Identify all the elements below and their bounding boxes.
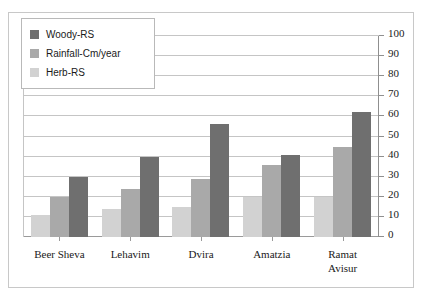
bar: [191, 179, 210, 237]
tick-mark: [201, 237, 202, 241]
chart-figure: 0102030405060708090100 Beer ShevaLehavim…: [8, 12, 414, 288]
legend-item-label: Woody-RS: [46, 29, 94, 40]
x-axis-category-line: Ramat: [307, 247, 378, 261]
tick-mark: [379, 55, 384, 56]
legend-swatch-icon: [30, 49, 39, 58]
bar: [314, 197, 333, 237]
bar: [102, 209, 121, 237]
bar-group: [166, 36, 237, 237]
x-axis-category-label: Dvira: [166, 237, 237, 285]
x-axis-category-line: Dvira: [166, 247, 237, 261]
tick-mark: [379, 236, 384, 237]
tick-mark: [343, 237, 344, 241]
tick-mark: [379, 176, 384, 177]
x-axis-category-line: Lehavim: [95, 247, 166, 261]
bar: [140, 157, 159, 237]
bar: [333, 147, 352, 237]
legend-swatch-icon: [30, 68, 39, 77]
legend-item: Rainfall-Cm/year: [30, 44, 144, 63]
tick-mark: [379, 216, 384, 217]
tick-mark: [130, 237, 131, 241]
bar: [262, 165, 281, 237]
chart-legend: Woody-RSRainfall-Cm/yearHerb-RS: [21, 18, 155, 89]
y-axis-tick-label: 90: [388, 48, 399, 59]
bar: [31, 215, 50, 237]
y-axis-tick-label: 30: [388, 169, 399, 180]
tick-mark: [379, 75, 384, 76]
y-axis-tick-label: 80: [388, 68, 399, 79]
x-axis-category-line: Amatzia: [236, 247, 307, 261]
legend-item: Herb-RS: [30, 63, 144, 82]
legend-item-label: Rainfall-Cm/year: [46, 48, 120, 59]
tick-mark: [379, 136, 384, 137]
y-axis-tick-label: 20: [388, 189, 399, 200]
bar: [50, 197, 69, 237]
bar: [352, 112, 371, 237]
tick-mark: [379, 115, 384, 116]
tick-mark: [379, 196, 384, 197]
y-axis-tick-label: 100: [388, 28, 405, 39]
x-axis-category-line: Beer Sheva: [24, 247, 95, 261]
tick-mark: [379, 156, 384, 157]
legend-item: Woody-RS: [30, 25, 144, 44]
bar: [69, 177, 88, 237]
y-axis: 0102030405060708090100: [379, 36, 415, 237]
x-axis: Beer ShevaLehavimDviraAmatziaRamatAvisur: [24, 237, 378, 285]
legend-swatch-icon: [30, 30, 39, 39]
x-axis-category-label: RamatAvisur: [307, 237, 378, 285]
y-axis-tick-label: 10: [388, 209, 399, 220]
x-axis-category-label: Amatzia: [236, 237, 307, 285]
y-axis-tick-label: 70: [388, 88, 399, 99]
y-axis-tick-label: 0: [388, 229, 394, 240]
bar-group: [307, 36, 378, 237]
tick-mark: [379, 35, 384, 36]
y-axis-tick-label: 40: [388, 149, 399, 160]
tick-mark: [59, 237, 60, 241]
bar: [172, 207, 191, 237]
bar: [281, 155, 300, 237]
y-axis-tick-label: 60: [388, 108, 399, 119]
bar-group: [236, 36, 307, 237]
legend-item-label: Herb-RS: [46, 67, 85, 78]
x-axis-category-label: Beer Sheva: [24, 237, 95, 285]
x-axis-category-line: Avisur: [307, 261, 378, 275]
tick-mark: [272, 237, 273, 241]
bar: [210, 124, 229, 237]
bar: [243, 197, 262, 237]
y-axis-tick-label: 50: [388, 129, 399, 140]
x-axis-category-label: Lehavim: [95, 237, 166, 285]
tick-mark: [379, 95, 384, 96]
bar: [121, 189, 140, 237]
